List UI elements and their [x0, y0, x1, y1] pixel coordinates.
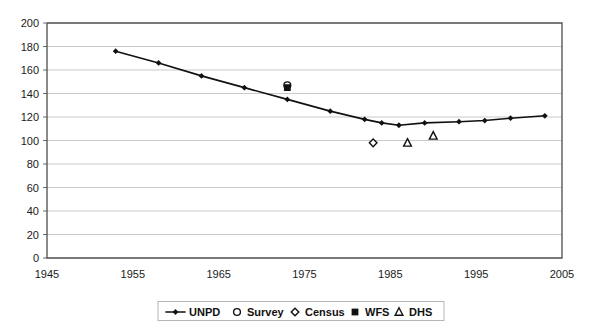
- data-point-wfs: [284, 84, 291, 91]
- y-tick-label: 0: [33, 252, 39, 264]
- x-tick-label: 1995: [464, 268, 488, 280]
- y-tick-label: 120: [21, 111, 39, 123]
- y-tick-label: 60: [27, 182, 39, 194]
- y-tick-label: 200: [21, 17, 39, 29]
- chart-background: [0, 0, 602, 332]
- legend-label-survey: Survey: [247, 306, 285, 318]
- y-tick-label: 20: [27, 229, 39, 241]
- legend-label-dhs: DHS: [409, 306, 432, 318]
- legend-label-unpd: UNPD: [189, 306, 220, 318]
- y-tick-label: 100: [21, 135, 39, 147]
- x-tick-label: 1945: [35, 268, 59, 280]
- legend-label-wfs: WFS: [365, 306, 389, 318]
- legend: UNPDSurveyCensusWFSDHS: [158, 302, 444, 321]
- x-tick-label: 2005: [550, 268, 574, 280]
- x-tick-label: 1975: [292, 268, 316, 280]
- line-chart: 020406080100120140160180200 194519551965…: [0, 0, 602, 332]
- x-tick-label: 1985: [378, 268, 402, 280]
- series-wfs: [284, 84, 291, 91]
- y-tick-label: 80: [27, 158, 39, 170]
- x-tick-label: 1965: [206, 268, 230, 280]
- chart-container: 020406080100120140160180200 194519551965…: [0, 0, 602, 332]
- legend-marker-wfs: [352, 309, 359, 316]
- legend-marker-survey: [234, 309, 241, 316]
- legend-label-census: Census: [305, 306, 345, 318]
- y-tick-label: 140: [21, 88, 39, 100]
- x-tick-label: 1955: [121, 268, 145, 280]
- y-tick-label: 160: [21, 64, 39, 76]
- y-tick-label: 40: [27, 205, 39, 217]
- y-tick-label: 180: [21, 41, 39, 53]
